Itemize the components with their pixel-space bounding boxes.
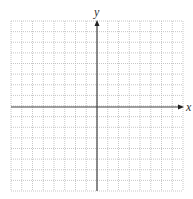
coordinate-grid: x y (0, 0, 193, 199)
y-axis-label: y (93, 5, 100, 19)
x-axis-label: x (185, 100, 192, 114)
